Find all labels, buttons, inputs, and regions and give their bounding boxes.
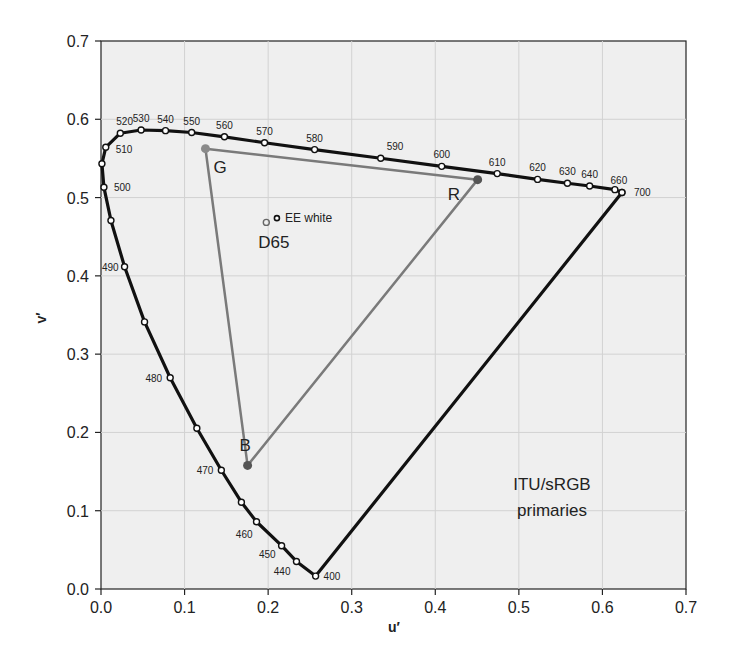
wavelength-label: 490: [102, 262, 119, 273]
x-tick-label: 0.0: [90, 599, 112, 616]
y-axis-ticks: 0.00.10.20.30.40.50.60.7: [67, 33, 101, 598]
wavelength-label: 400: [324, 571, 341, 582]
y-tick-label: 0.7: [67, 33, 89, 50]
primary-label-b: B: [240, 436, 251, 455]
annotation-line-1: ITU/sRGB: [513, 475, 590, 494]
wavelength-label: 440: [274, 566, 291, 577]
primary-label-r: R: [448, 185, 460, 204]
wavelength-label: 450: [259, 549, 276, 560]
y-tick-label: 0.1: [67, 503, 89, 520]
wavelength-label: 570: [256, 126, 273, 137]
cie-uv-chromaticity-chart: 0.00.10.20.30.40.50.60.7 0.00.10.20.30.4…: [0, 0, 732, 672]
wavelength-label: 590: [387, 141, 404, 152]
x-tick-label: 0.2: [257, 599, 279, 616]
wavelength-label: 580: [306, 133, 323, 144]
wavelength-label: 550: [183, 116, 200, 127]
wavelength-label: 640: [581, 169, 598, 180]
wavelength-label: 460: [236, 529, 253, 540]
y-axis-label: v′: [33, 312, 49, 324]
wavelength-label: 660: [611, 175, 628, 186]
y-tick-label: 0.6: [67, 111, 89, 128]
y-tick-label: 0.5: [67, 190, 89, 207]
d65-label: D65: [258, 233, 289, 252]
wavelength-label: 520: [116, 116, 133, 127]
wavelength-label: 530: [133, 113, 150, 124]
x-tick-label: 0.1: [173, 599, 195, 616]
wavelength-label: 510: [116, 144, 133, 155]
x-tick-label: 0.7: [675, 599, 697, 616]
wavelength-label: 610: [489, 157, 506, 168]
x-tick-label: 0.6: [591, 599, 613, 616]
x-axis-label: u′: [388, 619, 401, 635]
x-tick-label: 0.4: [424, 599, 446, 616]
wavelength-label: 500: [114, 182, 131, 193]
y-tick-label: 0.0: [67, 581, 89, 598]
wavelength-label: 470: [197, 465, 214, 476]
x-axis-ticks: 0.00.10.20.30.40.50.60.7: [90, 589, 697, 616]
wavelength-label: 560: [216, 120, 233, 131]
wavelength-label: 700: [634, 187, 651, 198]
y-tick-label: 0.2: [67, 424, 89, 441]
wavelength-label: 540: [157, 114, 174, 125]
y-tick-label: 0.4: [67, 268, 89, 285]
wavelength-label: 480: [146, 373, 163, 384]
y-tick-label: 0.3: [67, 346, 89, 363]
annotation-line-2: primaries: [517, 501, 587, 520]
ee-white-label: EE white: [285, 211, 333, 225]
primary-label-g: G: [213, 158, 226, 177]
x-tick-label: 0.3: [341, 599, 363, 616]
x-tick-label: 0.5: [508, 599, 530, 616]
wavelength-label: 600: [433, 149, 450, 160]
wavelength-label: 630: [559, 166, 576, 177]
wavelength-label: 620: [529, 162, 546, 173]
